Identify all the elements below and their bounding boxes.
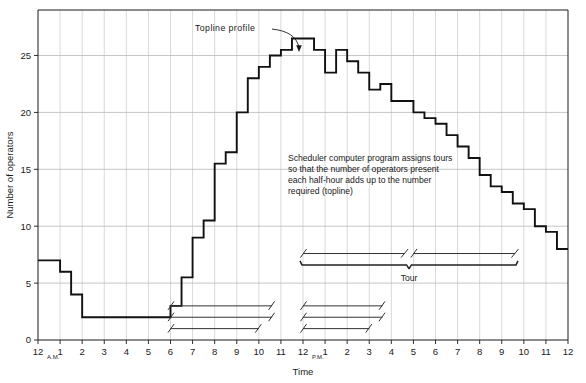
annotation-line-2: so that the number of operators present [288,164,440,174]
x-tick-label: 1 [322,346,327,357]
y-tick-label: 10 [20,221,31,232]
x-tick-label: 7 [190,346,195,357]
annotation-line-4: required (topline) [288,186,353,196]
x-tick-label: 4 [389,346,394,357]
tour-bracket-label: Tour [401,273,418,283]
y-tick-label: 5 [26,278,31,289]
x-tick-label: 9 [499,346,504,357]
x-tick-label: 9 [234,346,239,357]
x-tick-label: 5 [411,346,416,357]
x-tick-label: 6 [168,346,173,357]
x-tick-label: 5 [146,346,151,357]
x-tick-label: 4 [124,346,129,357]
x-tick-label: 11 [276,346,286,357]
x-tick-label: 2 [80,346,85,357]
chart-figure: 0510152025 12A.M.123456789101112P.M.1234… [0,0,586,383]
y-tick-label: 15 [20,164,31,175]
x-tick-label: 3 [367,346,372,357]
y-tick-label: 20 [20,107,31,118]
x-tick-label: 12 [33,346,44,357]
y-tick-label: 25 [20,50,31,61]
x-tick-label: 1 [57,346,62,357]
topline-profile-step-chart: 0510152025 12A.M.123456789101112P.M.1234… [0,0,586,383]
x-tick-label: 2 [345,346,350,357]
annotation-line-1: Scheduler computer program assigns tours [288,153,452,163]
x-tick-label: 12 [298,346,309,357]
x-tick-label: 11 [541,346,551,357]
x-tick-label: 10 [254,346,265,357]
x-axis-title: Time [293,366,314,377]
x-tick-label: 10 [519,346,530,357]
annotation-line-3: each half-hour adds up to the number [288,175,431,185]
x-tick-label: 6 [433,346,438,357]
topline-callout-label: Topline profile [195,23,255,33]
x-tick-label: 3 [102,346,107,357]
y-axis-title: Number of operators [4,131,15,218]
x-tick-label: 12 [563,346,574,357]
x-tick-label: 8 [477,346,482,357]
x-tick-label: 8 [212,346,217,357]
x-tick-label: 7 [455,346,460,357]
y-tick-label: 0 [26,334,31,345]
